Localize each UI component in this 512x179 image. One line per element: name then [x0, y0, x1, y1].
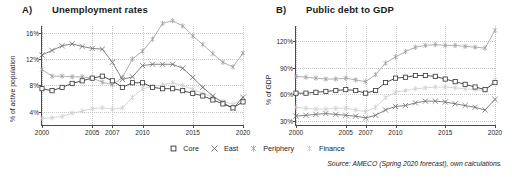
chart-panel-b: B)Public debt to GDP % of GDP 30%60%90%1… — [254, 0, 510, 150]
legend-label: Periphery — [263, 144, 294, 153]
x-axis-tick-label: 2020 — [236, 129, 250, 136]
x-axis-tick-label: 2005 — [339, 129, 353, 136]
panel-a-y-axis-label: % of active population — [9, 55, 16, 122]
x-axis-tick-label: 2007 — [105, 129, 119, 136]
x-axis-tick-mark — [92, 125, 93, 128]
legend-label: Finance — [319, 144, 345, 153]
panel-a-letter: A) — [22, 4, 52, 15]
x-axis-tick-mark — [143, 125, 144, 128]
y-axis-tick-label: 16% — [26, 29, 39, 36]
series-layer — [42, 26, 243, 125]
x-axis-tick-label: 2015 — [186, 129, 200, 136]
y-axis-tick-label: 60% — [280, 91, 293, 98]
source-note: Source: AMECO (Spring 2020 forecast), ow… — [327, 160, 502, 167]
panel-a-title: Unemployment rates — [52, 4, 148, 15]
panel-a-header: A)Unemployment rates — [22, 4, 148, 15]
x-axis-tick-mark — [296, 125, 297, 128]
cross-marker — [208, 144, 221, 153]
legend-item-core[interactable]: Core — [167, 144, 199, 153]
x-axis-tick-mark — [396, 125, 397, 128]
y-axis-tick-label: 4% — [30, 108, 39, 115]
x-axis-tick-label: 2000 — [289, 129, 303, 136]
panel-a-plot-area: 4%8%12%16%200020052007201020152020 — [41, 26, 243, 126]
y-axis-tick-label: 8% — [30, 82, 39, 89]
series-layer — [296, 26, 495, 125]
asterisk-marker — [247, 144, 260, 153]
asterisk-marker — [303, 144, 316, 153]
x-axis-tick-mark — [243, 125, 244, 128]
x-axis-tick-label: 2010 — [388, 129, 402, 136]
panel-b-letter: B) — [276, 4, 306, 15]
gridline-vertical — [243, 26, 245, 125]
series-east — [293, 97, 497, 121]
x-axis-tick-mark — [346, 125, 347, 128]
panel-b-plot-area: 30%60%90%120%200020052007201020152020 — [295, 26, 495, 126]
legend-label: Core — [183, 144, 199, 153]
x-axis-tick-mark — [445, 125, 446, 128]
legend-item-east[interactable]: East — [208, 144, 238, 153]
panel-b-header: B)Public debt to GDP — [276, 4, 394, 15]
legend-item-finance[interactable]: Finance — [303, 144, 345, 153]
panel-b-y-axis-label: % of GDP — [265, 75, 272, 105]
x-axis-tick-label: 2020 — [488, 129, 502, 136]
x-axis-tick-mark — [495, 125, 496, 128]
y-axis-tick-label: 30% — [280, 117, 293, 124]
x-axis-tick-label: 2007 — [358, 129, 372, 136]
series-core — [40, 74, 245, 110]
chart-panel-a: A)Unemployment rates % of active populat… — [0, 0, 256, 150]
y-axis-tick-label: 90% — [280, 64, 293, 71]
y-axis-tick-label: 120% — [276, 38, 293, 45]
square-marker — [167, 144, 180, 153]
gridline-vertical — [495, 26, 497, 125]
x-axis-tick-label: 2015 — [438, 129, 452, 136]
figure-container: A)Unemployment rates % of active populat… — [0, 0, 512, 179]
x-axis-tick-mark — [112, 125, 113, 128]
series-periphery — [40, 18, 245, 87]
y-axis-tick-label: 12% — [26, 56, 39, 63]
x-axis-tick-label: 2000 — [35, 129, 49, 136]
x-axis-tick-mark — [42, 125, 43, 128]
panel-b-title: Public debt to GDP — [306, 4, 394, 15]
x-axis-tick-label: 2005 — [85, 129, 99, 136]
legend-item-periphery[interactable]: Periphery — [247, 144, 294, 153]
x-axis-tick-label: 2010 — [135, 129, 149, 136]
legend-label: East — [224, 144, 238, 153]
x-axis-tick-mark — [366, 125, 367, 128]
chart-legend: CoreEastPeripheryFinance — [0, 144, 512, 153]
x-axis-tick-mark — [193, 125, 194, 128]
